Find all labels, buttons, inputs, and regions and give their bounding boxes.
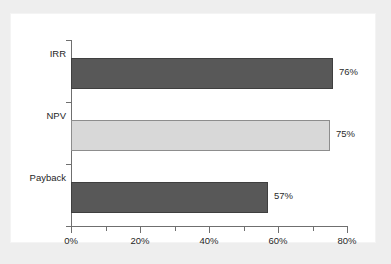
- x-axis-tick-labels: 0% 20% 40% 60% 80%: [71, 235, 348, 249]
- x-tick-label-40: 40%: [199, 235, 218, 246]
- category-label-payback: Payback: [30, 172, 66, 183]
- y-axis-tick: [66, 102, 71, 103]
- y-axis-tick: [66, 164, 71, 165]
- x-axis-tick-major: [71, 227, 72, 233]
- bar-irr[interactable]: [71, 58, 333, 89]
- bar-value-npv: 75%: [336, 128, 355, 139]
- x-tick-label-60: 60%: [268, 235, 287, 246]
- page-background: IRR NPV Payback 76% 75% 57%: [0, 0, 391, 264]
- x-tick-label-0: 0%: [64, 235, 78, 246]
- chart-panel: IRR NPV Payback 76% 75% 57%: [10, 13, 376, 243]
- category-label-npv: NPV: [46, 110, 66, 121]
- x-axis-tick-minor: [175, 227, 176, 231]
- x-tick-label-80: 80%: [337, 235, 356, 246]
- x-axis-tick-major: [140, 227, 141, 233]
- category-axis-labels: IRR NPV Payback: [19, 40, 66, 226]
- x-tick-label-20: 20%: [130, 235, 149, 246]
- x-axis-ticks: [71, 227, 348, 233]
- x-axis-tick-minor: [106, 227, 107, 231]
- category-label-irr: IRR: [50, 48, 66, 59]
- bar-value-irr: 76%: [339, 66, 358, 77]
- bar-value-payback: 57%: [274, 190, 293, 201]
- plot-area: 76% 75% 57%: [71, 40, 347, 226]
- bar-npv[interactable]: [71, 120, 330, 151]
- x-axis-tick-minor: [244, 227, 245, 231]
- bar-payback[interactable]: [71, 182, 268, 213]
- x-axis-tick-major: [347, 227, 348, 233]
- x-axis-tick-major: [278, 227, 279, 233]
- y-axis-tick: [66, 40, 71, 41]
- x-axis-tick-major: [209, 227, 210, 233]
- x-axis-tick-minor: [313, 227, 314, 231]
